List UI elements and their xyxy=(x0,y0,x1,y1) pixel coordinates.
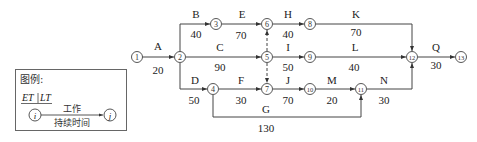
node-1-label: 1 xyxy=(135,53,139,62)
node-4-label: 4 xyxy=(211,85,215,94)
activity-c-duration: 90 xyxy=(215,61,227,73)
activity-h-duration: 40 xyxy=(283,28,295,40)
legend-work-label: 工作 xyxy=(63,103,81,114)
node-3-label: 3 xyxy=(214,20,218,29)
activity-b-name: B xyxy=(192,8,199,20)
node-11-label: 11 xyxy=(358,86,364,93)
activity-a-duration: 20 xyxy=(153,64,165,76)
activity-f-duration: 30 xyxy=(236,94,248,106)
activity-n-name: N xyxy=(380,74,388,86)
activity-j-name: J xyxy=(286,74,291,86)
activity-q-name: Q xyxy=(432,41,440,53)
activity-h-name: H xyxy=(284,8,292,20)
legend-et: ET xyxy=(21,92,35,103)
legend-lt: LT xyxy=(39,92,52,103)
network-diagram: 1 2 3 4 5 6 7 8 9 10 11 12 13 A 20 B 40 … xyxy=(0,0,477,142)
node-10-label: 10 xyxy=(307,86,314,93)
activity-q-duration: 30 xyxy=(431,59,443,71)
activity-k-name: K xyxy=(352,8,360,20)
node-8-label: 8 xyxy=(308,20,312,29)
activity-f-name: F xyxy=(238,74,244,86)
activity-c-name: C xyxy=(216,41,223,53)
legend-node-j-label: j xyxy=(108,111,112,121)
legend: 图例: ET LT i j 工作 持续时间 xyxy=(16,70,127,131)
activity-m-duration: 20 xyxy=(327,94,339,106)
activity-j-duration: 70 xyxy=(283,94,295,106)
legend-title: 图例: xyxy=(20,73,43,85)
activity-n-duration: 30 xyxy=(379,94,391,106)
activity-i-duration: 50 xyxy=(283,61,295,73)
node-12-label: 12 xyxy=(409,54,416,61)
node-7-label: 7 xyxy=(265,85,269,94)
activity-i-name: I xyxy=(286,41,290,53)
activity-l-duration: 40 xyxy=(349,61,361,73)
activity-d-name: D xyxy=(191,74,199,86)
legend-duration-label: 持续时间 xyxy=(54,117,90,128)
activity-e-duration: 70 xyxy=(236,29,248,41)
arrow-n xyxy=(367,63,412,89)
activity-m-name: M xyxy=(327,74,337,86)
activity-g-name: G xyxy=(262,103,270,115)
activity-l-name: L xyxy=(352,41,359,53)
node-6-label: 6 xyxy=(265,20,269,29)
activity-e-name: E xyxy=(239,8,246,20)
node-5-label: 5 xyxy=(265,53,269,62)
arrow-k xyxy=(316,24,412,51)
activity-b-duration: 40 xyxy=(191,28,203,40)
activity-a-name: A xyxy=(154,40,162,52)
activity-g-duration: 130 xyxy=(258,122,275,134)
activity-d-duration: 50 xyxy=(189,94,201,106)
node-2-label: 2 xyxy=(178,53,182,62)
activity-k-duration: 70 xyxy=(351,26,363,38)
node-9-label: 9 xyxy=(308,53,312,62)
node-13-label: 13 xyxy=(458,54,465,61)
